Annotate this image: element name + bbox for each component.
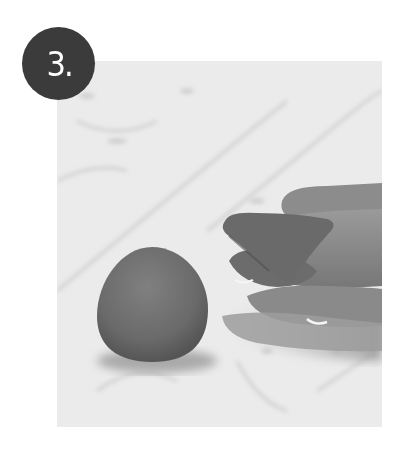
step-number-badge: 3. bbox=[22, 27, 95, 100]
hand bbox=[222, 183, 382, 351]
clay-ball bbox=[97, 247, 208, 362]
step-photo bbox=[57, 61, 382, 427]
step-number-label: 3. bbox=[47, 44, 73, 84]
photo-illustration bbox=[57, 61, 382, 427]
